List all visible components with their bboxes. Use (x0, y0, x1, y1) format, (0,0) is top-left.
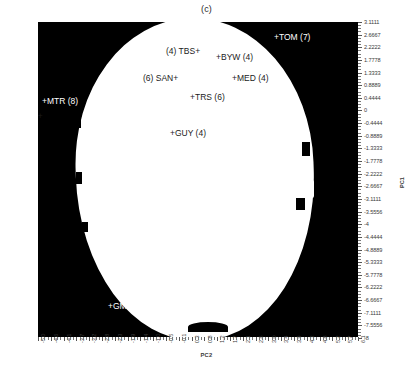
y-axis-tick-label: -3.5556 (364, 209, 382, 215)
y-axis-minor-tick (358, 101, 361, 102)
y-axis-minor-tick (358, 142, 361, 143)
x-axis-minor-tick (284, 337, 285, 340)
point-label-trs: +TRS (6) (190, 93, 225, 102)
x-axis-minor-tick (124, 337, 125, 340)
y-axis-tick (358, 73, 362, 74)
y-axis-tick-label: -7.5556 (364, 322, 382, 328)
x-axis-minor-tick (352, 337, 353, 340)
y-axis-minor-tick (358, 259, 361, 260)
point-label-mst: (6) MST+ (38, 112, 43, 121)
y-axis-tick-label: 0.4444 (364, 95, 381, 101)
y-axis-tick-label: 1.7778 (364, 57, 381, 63)
y-axis-minor-tick (358, 114, 361, 115)
x-axis-minor-tick (265, 337, 266, 340)
x-axis-tick (102, 337, 103, 341)
x-axis-minor-tick (198, 337, 199, 340)
y-axis-minor-tick (358, 92, 361, 93)
x-axis-minor-tick (300, 337, 301, 340)
y-axis-minor-tick (358, 306, 361, 307)
y-axis-minor-tick (358, 231, 361, 232)
y-axis-minor-tick (358, 221, 361, 222)
y-axis-tick (358, 85, 362, 86)
y-axis-minor-tick (358, 139, 361, 140)
x-axis-minor-tick (150, 337, 151, 340)
x-axis-tick (38, 337, 39, 341)
y-axis-tick (358, 148, 362, 149)
x-axis-minor-tick (67, 337, 68, 340)
x-axis-tick (230, 337, 231, 341)
y-axis-tick (358, 123, 362, 124)
y-axis-tick (358, 237, 362, 238)
x-axis-minor-tick (236, 337, 237, 340)
x-axis-minor-tick (246, 337, 247, 340)
y-axis-tick-label: -5.3333 (364, 259, 382, 265)
y-axis-tick-label: 2.2222 (364, 44, 381, 50)
y-axis-tick-label: -3.1111 (364, 196, 381, 202)
y-axis-minor-tick (358, 332, 361, 333)
y-axis-minor-tick (358, 164, 361, 165)
x-axis-minor-tick (48, 337, 49, 340)
point-label-guy: +GUY (4) (170, 129, 206, 138)
y-axis-minor-tick (358, 158, 361, 159)
x-axis-minor-tick (73, 337, 74, 340)
y-axis-minor-tick (358, 50, 361, 51)
x-axis-minor-tick (310, 337, 311, 340)
y-axis-minor-tick (358, 205, 361, 206)
y-axis-tick (358, 174, 362, 175)
point-label-tbs: (4) TBS+ (166, 47, 200, 56)
x-axis-minor-tick (182, 337, 183, 340)
y-axis-tick-label: -0.4444 (364, 120, 382, 126)
membership-region (70, 22, 319, 337)
y-axis-minor-tick (358, 316, 361, 317)
y-axis-tick-label: -6.2222 (364, 284, 382, 290)
y-axis-tick (358, 287, 362, 288)
x-axis-minor-tick (272, 337, 273, 340)
y-axis-minor-tick (358, 88, 361, 89)
y-axis-minor-tick (358, 104, 361, 105)
x-axis-minor-tick (288, 337, 289, 340)
x-axis-minor-tick (44, 337, 45, 340)
y-axis-tick-label: -0.8889 (364, 133, 382, 139)
x-axis-tick (128, 337, 129, 341)
x-axis-minor-tick (329, 337, 330, 340)
y-axis-minor-tick (358, 180, 361, 181)
x-axis-minor-tick (54, 337, 55, 340)
x-axis-tick (332, 337, 333, 341)
x-axis-minor-tick (291, 337, 292, 340)
x-axis-minor-tick (57, 337, 58, 340)
y-axis-minor-tick (358, 120, 361, 121)
y-axis-minor-tick (358, 256, 361, 257)
y-axis-tick-label: 0 (364, 107, 367, 113)
x-axis-minor-tick (208, 337, 209, 340)
y-axis-tick-label: -6.6667 (364, 297, 382, 303)
x-axis-minor-tick (134, 337, 135, 340)
y-axis-minor-tick (358, 107, 361, 108)
region-notch (296, 198, 305, 210)
y-axis-minor-tick (358, 126, 361, 127)
x-axis-minor-tick (252, 337, 253, 340)
y-axis-minor-tick (358, 145, 361, 146)
x-axis-minor-tick (214, 337, 215, 340)
y-axis-label: PC1 (399, 177, 405, 188)
y-axis-minor-tick (358, 322, 361, 323)
y-axis-minor-tick (358, 193, 361, 194)
x-axis-minor-tick (185, 337, 186, 340)
y-axis-tick-label: -4.4444 (364, 234, 382, 240)
x-axis-minor-tick (176, 337, 177, 340)
figure-title: (c) (0, 4, 413, 14)
x-axis-minor-tick (105, 337, 106, 340)
x-axis-minor-tick (348, 337, 349, 340)
x-axis-tick-label: 6.1 (360, 336, 366, 343)
x-axis-minor-tick (336, 337, 337, 340)
y-axis-minor-tick (358, 183, 361, 184)
point-label-mtr: +MTR (8) (42, 97, 78, 106)
x-axis-minor-tick (249, 337, 250, 340)
y-axis-minor-tick (358, 69, 361, 70)
y-axis-minor-tick (358, 196, 361, 197)
y-axis-minor-tick (358, 319, 361, 320)
x-axis-minor-tick (86, 337, 87, 340)
y-axis-minor-tick (358, 63, 361, 64)
y-axis-minor-tick (358, 66, 361, 67)
x-axis-minor-tick (169, 337, 170, 340)
y-axis-tick (358, 313, 362, 314)
